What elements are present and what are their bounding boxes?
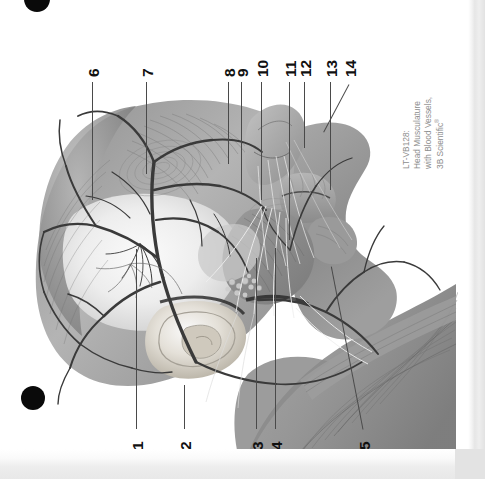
caption-line-subtitle: with Blood Vessels, [424, 97, 432, 169]
label-10: 10 [255, 60, 271, 77]
label-12: 12 [298, 60, 314, 77]
registration-dot-bottom [21, 386, 45, 410]
scan-edge-bottom [0, 449, 485, 479]
leader-line-9 [241, 82, 242, 192]
leader-line-12 [304, 82, 305, 148]
leader-line-1 [136, 249, 137, 429]
scan-edge-right [458, 0, 485, 479]
leader-line-4b [275, 248, 276, 429]
label-14: 14 [343, 60, 359, 77]
label-13: 13 [324, 60, 340, 77]
plate-caption: LT-VB128: Head Musculature with Blood Ve… [402, 44, 450, 174]
leader-line-6 [92, 82, 93, 200]
caption-line-catalog: LT-VB128: [402, 130, 410, 169]
scan-edge-corner [455, 449, 485, 479]
registered-trademark-icon: ® [434, 119, 440, 123]
label-9: 9 [235, 68, 251, 77]
leader-line-8 [228, 82, 229, 164]
leader-line-3 [256, 258, 257, 429]
scanned-page: 6 7 8 9 10 11 12 13 14 1 2 3 4 5 LT-VB12… [0, 0, 485, 479]
caption-line-title: Head Musculature [413, 101, 421, 169]
caption-brand-text: 3B Scientific [435, 123, 445, 169]
label-7: 7 [140, 68, 156, 77]
leader-line-13 [330, 82, 331, 190]
caption-line-brand: 3B Scientific® [435, 119, 444, 169]
leader-line-10 [261, 82, 262, 200]
leader-line-11 [289, 82, 290, 240]
leader-line-7 [146, 82, 147, 174]
label-6: 6 [86, 68, 102, 77]
leader-line-2 [184, 385, 185, 429]
